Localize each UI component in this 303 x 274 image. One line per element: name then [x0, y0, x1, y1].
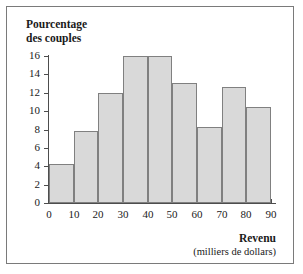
- histogram-bar: [98, 93, 123, 203]
- y-axis-tick-label: 0: [18, 196, 40, 208]
- x-axis-tick-label: 0: [37, 208, 61, 220]
- histogram-bar: [222, 87, 247, 203]
- histogram-bar: [172, 83, 197, 203]
- histogram-bar: [197, 127, 222, 203]
- x-axis-tick-label: 10: [62, 208, 86, 220]
- y-axis-tick-label: 4: [18, 159, 40, 171]
- y-axis-tick-label: 14: [18, 67, 40, 79]
- x-axis-tick-label: 40: [136, 208, 160, 220]
- x-axis-tick-label: 50: [160, 208, 184, 220]
- y-axis-tick-label: 16: [18, 49, 40, 61]
- x-axis-tick-label: 20: [86, 208, 110, 220]
- x-axis-tick-label: 60: [185, 208, 209, 220]
- x-axis-tick: [271, 199, 272, 204]
- y-axis-tick-label: 10: [18, 104, 40, 116]
- histogram-bar: [74, 131, 99, 203]
- y-axis-tick-label: 12: [18, 86, 40, 98]
- x-axis-tick-label: 90: [259, 208, 283, 220]
- histogram-figure: Pourcentage des couples 0246810121416 01…: [0, 0, 303, 274]
- histogram-bar: [49, 164, 74, 204]
- x-axis-tick-label: 80: [234, 208, 258, 220]
- histogram-bar: [123, 56, 148, 203]
- x-axis-units-label: (milliers de dollars): [140, 246, 276, 257]
- x-axis-line: [44, 203, 276, 204]
- histogram-bar: [246, 107, 271, 203]
- y-axis-tick-label: 8: [18, 123, 40, 135]
- y-axis-tick-label: 6: [18, 141, 40, 153]
- y-axis-tick-label: 2: [18, 178, 40, 190]
- histogram-bar: [148, 56, 173, 203]
- x-axis-tick-label: 70: [210, 208, 234, 220]
- x-axis-title: Revenu: [150, 232, 276, 244]
- plot-area: [49, 56, 271, 203]
- y-axis-title: Pourcentage des couples: [26, 18, 166, 45]
- x-axis-tick-label: 30: [111, 208, 135, 220]
